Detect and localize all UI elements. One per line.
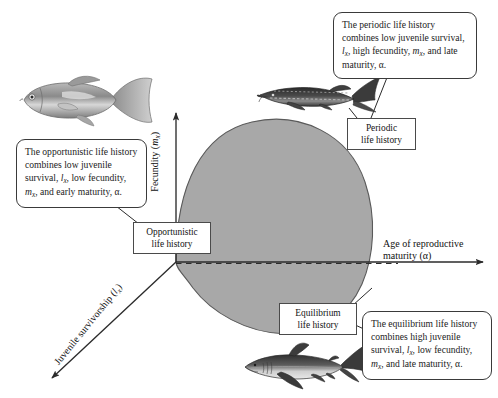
guppy-illustration [16, 70, 156, 130]
figure-canvas: Fecundity (mx) Age of reproductive matur… [0, 0, 498, 398]
x-axis-label: Age of reproductive maturity (α) [383, 238, 491, 262]
sturgeon-illustration [256, 74, 382, 120]
shark-illustration [241, 341, 373, 393]
label-box-opportunistic: Opportunistic life history [133, 222, 211, 254]
callout-equilibrium: The equilibrium life history combines hi… [362, 311, 492, 380]
callout-periodic: The periodic life history combines low j… [333, 12, 477, 79]
y-axis-label: Fecundity (mx) [149, 132, 162, 192]
diagonal-axis [52, 262, 176, 378]
label-box-periodic: Periodic life history [347, 118, 416, 150]
label-box-equilibrium: Equilibrium life history [279, 303, 357, 335]
callout-opportunistic: The opportunistic life history combines … [16, 139, 147, 208]
